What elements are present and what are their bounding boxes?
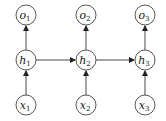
node-h3: h3	[135, 50, 155, 70]
node-o3: o3	[135, 5, 155, 25]
rnn-diagram: o1o2o3h1h2h3x1x2x3	[0, 0, 166, 121]
node-x1: x1	[16, 95, 36, 115]
node-h1: h1	[16, 50, 36, 70]
node-x3: x3	[135, 95, 155, 115]
node-h2: h2	[76, 50, 96, 70]
node-o2: o2	[76, 5, 96, 25]
node-o1: o1	[16, 5, 36, 25]
node-x2: x2	[76, 95, 96, 115]
